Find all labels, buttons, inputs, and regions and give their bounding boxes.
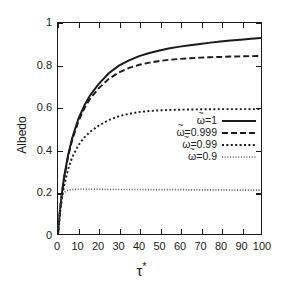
y-tick-left bbox=[58, 23, 63, 24]
y-tick-label: 0.4 bbox=[20, 144, 52, 155]
x-tick-label: 60 bbox=[174, 241, 186, 252]
x-tick-label: 50 bbox=[153, 241, 165, 252]
x-tick-label: 90 bbox=[235, 241, 247, 252]
y-tick-right bbox=[256, 23, 261, 24]
x-tick-label: 20 bbox=[92, 241, 104, 252]
y-tick-label: 0.8 bbox=[20, 59, 52, 70]
x-tick-bottom bbox=[120, 229, 121, 234]
legend-line-sample bbox=[221, 152, 257, 162]
x-tick-bottom bbox=[202, 229, 203, 234]
x-tick-label: 0 bbox=[54, 241, 60, 252]
omega-tilde: ~ bbox=[176, 121, 184, 130]
omega-tilde: ~ bbox=[188, 145, 196, 154]
x-tick-bottom bbox=[161, 229, 162, 234]
legend-item-label: ω~=1 bbox=[197, 115, 221, 126]
x-tick-bottom bbox=[181, 229, 182, 234]
legend-item-omega-0_9: ω~=0.9 bbox=[145, 151, 257, 163]
x-tick-bottom bbox=[99, 229, 100, 234]
x-axis-title-star: * bbox=[142, 260, 146, 272]
legend-item-omega-0_999: ω~=0.999 bbox=[145, 127, 257, 139]
x-tick-label: 10 bbox=[71, 241, 83, 252]
x-tick-top bbox=[181, 23, 182, 28]
legend-item-value: =0.9 bbox=[196, 150, 217, 162]
x-tick-label: 30 bbox=[112, 241, 124, 252]
legend-line-sample bbox=[221, 128, 257, 138]
y-tick-right bbox=[256, 66, 261, 67]
x-tick-label: 80 bbox=[215, 241, 227, 252]
x-tick-top bbox=[99, 23, 100, 28]
omega-symbol: ω~ bbox=[197, 115, 205, 126]
x-tick-bottom bbox=[79, 229, 80, 234]
y-tick-left bbox=[58, 66, 63, 67]
x-tick-bottom bbox=[58, 229, 59, 234]
legend-line-sample bbox=[221, 116, 257, 126]
x-tick-top bbox=[140, 23, 141, 28]
omega-tilde: ~ bbox=[182, 133, 190, 142]
x-tick-label: 100 bbox=[253, 241, 271, 252]
y-tick-label: 0.2 bbox=[20, 187, 52, 198]
x-tick-top bbox=[161, 23, 162, 28]
legend-item-omega-1: ω~=1 bbox=[145, 115, 257, 127]
x-tick-top bbox=[222, 23, 223, 28]
x-tick-top bbox=[202, 23, 203, 28]
y-tick-label: 0.6 bbox=[20, 102, 52, 113]
y-tick-right bbox=[256, 108, 261, 109]
x-tick-top bbox=[243, 23, 244, 28]
legend-line-sample bbox=[221, 140, 257, 150]
x-tick-top bbox=[120, 23, 121, 28]
x-tick-bottom bbox=[243, 229, 244, 234]
y-tick-left bbox=[58, 151, 63, 152]
y-tick-left bbox=[58, 193, 63, 194]
x-tick-bottom bbox=[140, 229, 141, 234]
y-tick-label: 1 bbox=[20, 17, 52, 28]
x-tick-bottom bbox=[222, 229, 223, 234]
legend-item-value: =1 bbox=[205, 114, 217, 126]
albedo-vs-optical-depth-chart: Albedo τ* 0102030405060708090100 00.20.4… bbox=[0, 0, 283, 286]
legend-item-label: ω~=0.9 bbox=[188, 151, 221, 162]
legend-item-omega-0_99: ω~=0.99 bbox=[145, 139, 257, 151]
x-tick-label: 70 bbox=[194, 241, 206, 252]
y-tick-right bbox=[256, 193, 261, 194]
x-axis-title: τ* bbox=[0, 260, 283, 279]
omega-symbol: ω~ bbox=[188, 151, 196, 162]
x-tick-label: 40 bbox=[133, 241, 145, 252]
y-tick-left bbox=[58, 108, 63, 109]
x-tick-top bbox=[79, 23, 80, 28]
chart-legend: ω~=1ω~=0.999ω~=0.99ω~=0.9 bbox=[145, 115, 257, 163]
curve-omega-0_9 bbox=[58, 189, 261, 234]
omega-tilde: ~ bbox=[197, 109, 205, 118]
y-tick-label: 0 bbox=[20, 230, 52, 241]
